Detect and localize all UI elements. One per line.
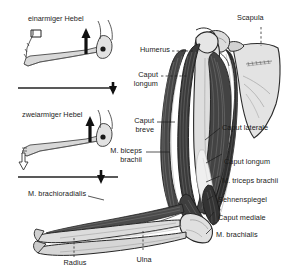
lever-title-one-armed: einarmiger Hebel: [28, 14, 84, 23]
label-caput-longum-triceps: Caput longum: [224, 158, 270, 167]
label-humerus: Humerus: [98, 46, 170, 55]
label-scapula: Scapula: [237, 14, 264, 23]
label-m-biceps-brachii: M. biceps brachii: [76, 147, 142, 164]
load-arrow-icon: [19, 148, 28, 170]
label-caput-mediale: Caput mediale: [218, 214, 266, 223]
label-caput-longum-biceps: Caput longum: [92, 71, 158, 88]
label-m-triceps-brachii: M. triceps brachii: [222, 177, 278, 186]
label-m-brachioradialis: M. brachioradialis: [28, 190, 86, 199]
label-radius: Radius: [54, 259, 96, 268]
lever-title-two-armed: zweiarmiger Hebel: [22, 110, 82, 119]
lever-schematic-two-armed: [18, 170, 118, 184]
label-sehnenspiegel: Sehnenspiegel: [218, 196, 267, 205]
anatomy-figure: einarmiger Hebel zweiarmiger Hebel Scapu…: [0, 0, 303, 277]
label-ulna: Ulna: [126, 256, 162, 265]
load-weight-icon: [24, 30, 41, 58]
label-caput-laterale: Caput laterale: [222, 124, 268, 133]
leader-m-brachioradialis: [88, 196, 104, 200]
label-caput-breve: Caput breve: [92, 117, 154, 134]
label-m-brachialis: M. brachialis: [216, 231, 258, 240]
fulcrum-pivot-icon: [97, 170, 105, 184]
